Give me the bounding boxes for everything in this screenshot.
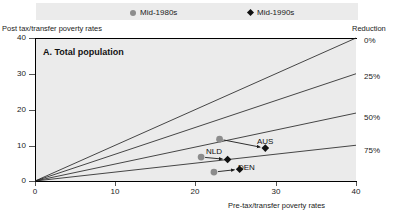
point-label-aus: AUS bbox=[257, 137, 273, 146]
point-label-den: DEN bbox=[238, 163, 255, 172]
reduction-lines bbox=[35, 38, 356, 181]
chart-figure: Mid-1980s Mid-1990s Post tax/transfer po… bbox=[0, 0, 394, 220]
point-label-nld: NLD bbox=[206, 147, 222, 156]
data-overlay bbox=[0, 0, 394, 220]
